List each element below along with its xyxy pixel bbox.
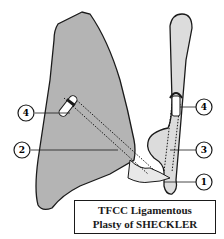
caption-line-2: Plasty of SHECKLER (93, 217, 198, 231)
svg-text:1: 1 (201, 177, 207, 187)
callout-2: 2 (14, 142, 30, 158)
callout-1: 1 (196, 174, 212, 190)
svg-text:4: 4 (201, 102, 207, 112)
callout-4-left: 4 (18, 105, 34, 121)
caption-box: TFCC Ligamentous Plasty of SHECKLER (74, 200, 216, 234)
ulna-bone (148, 14, 192, 194)
caption-line-1: TFCC Ligamentous (98, 203, 192, 217)
callout-4-right: 4 (196, 99, 212, 115)
anchor-right (170, 93, 182, 116)
svg-text:4: 4 (23, 108, 29, 118)
radius-bone (36, 12, 135, 209)
svg-text:3: 3 (201, 145, 207, 155)
svg-text:2: 2 (19, 145, 25, 155)
callout-3: 3 (196, 142, 212, 158)
